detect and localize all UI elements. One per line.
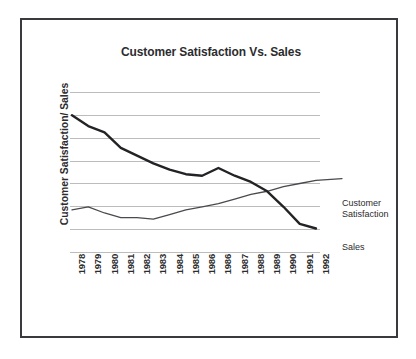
series-label-customer-satisfaction-line2: Satisfaction bbox=[342, 209, 389, 220]
x-tick-label: 1978 bbox=[76, 254, 87, 300]
x-tick-label: 1982 bbox=[141, 254, 152, 300]
x-axis-tick-labels: 1978197919801981198219831984198519861986… bbox=[70, 256, 324, 316]
series-label-sales: Sales bbox=[342, 242, 365, 253]
x-tick-label: 1988 bbox=[255, 254, 266, 300]
x-tick-label: 1984 bbox=[174, 254, 185, 300]
x-tick-label: 1980 bbox=[109, 254, 120, 300]
series-group bbox=[70, 92, 320, 254]
line-sales bbox=[72, 115, 316, 228]
line-customer-satisfaction bbox=[72, 179, 342, 220]
x-tick-label: 1986 bbox=[206, 254, 217, 300]
x-tick-label: 1987 bbox=[239, 254, 250, 300]
series-label-customer-satisfaction: Customer Satisfaction bbox=[342, 198, 389, 219]
figure-frame: Customer Satisfaction Vs. Sales Customer… bbox=[20, 18, 398, 338]
x-tick-label: 1989 bbox=[271, 254, 282, 300]
chart-title: Customer Satisfaction Vs. Sales bbox=[37, 44, 385, 59]
plot-area bbox=[70, 92, 320, 254]
x-tick-label: 1981 bbox=[125, 254, 136, 300]
x-tick-label: 1990 bbox=[287, 254, 298, 300]
series-label-customer-satisfaction-line1: Customer bbox=[342, 198, 389, 209]
x-tick-label: 1985 bbox=[190, 254, 201, 300]
x-tick-label: 1979 bbox=[92, 254, 103, 300]
x-tick-label: 1986 bbox=[222, 254, 233, 300]
y-axis-title: Customer Satisfaction/ Sales bbox=[58, 79, 70, 229]
x-tick-label: 1991 bbox=[304, 254, 315, 300]
x-tick-label: 1983 bbox=[157, 254, 168, 300]
x-tick-label: 1992 bbox=[320, 254, 331, 300]
